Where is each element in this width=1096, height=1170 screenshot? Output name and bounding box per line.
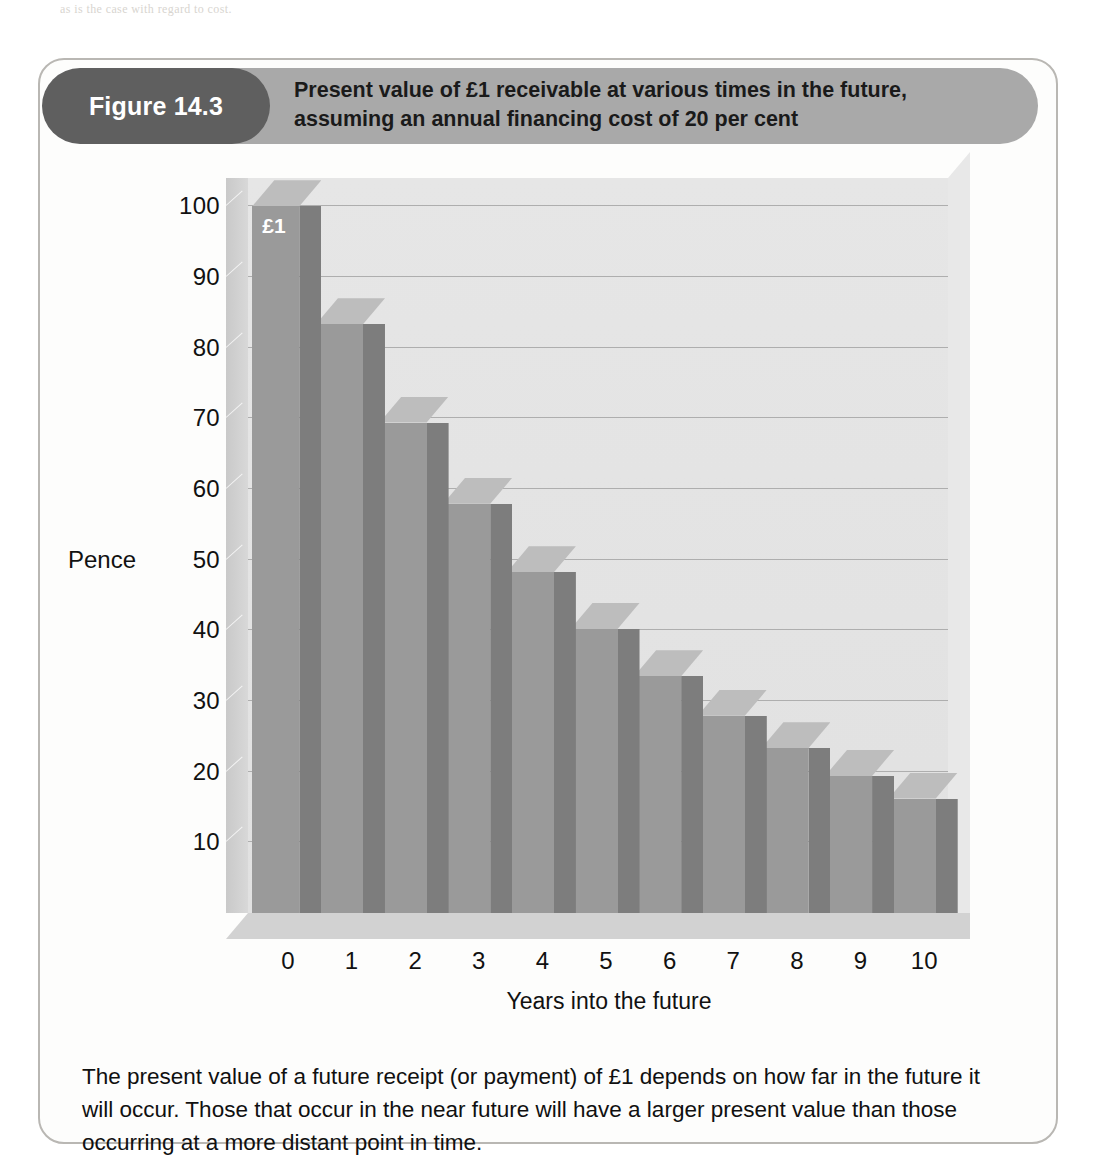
left-wall-gridline-50 (226, 544, 243, 559)
bar-side-face (618, 629, 640, 913)
x-tick-label-6: 6 (640, 947, 700, 975)
y-axis-tick-labels: 102030405060708090100 (140, 178, 220, 913)
x-axis-tick-labels: 012345678910 (248, 947, 970, 983)
bar-year-7 (698, 716, 745, 913)
figure-title-banner: Figure 14.3 Present value of £1 receivab… (66, 68, 1038, 144)
bar-top-face (889, 773, 958, 799)
bar-front-face (761, 748, 808, 913)
bar-side-face (872, 776, 894, 913)
bar-year-2 (380, 423, 427, 913)
left-wall-gridline-20 (226, 756, 243, 771)
y-tick-label-80: 80 (150, 334, 220, 362)
bar-side-face (299, 206, 321, 913)
bar-year-6 (634, 676, 681, 913)
chart: 102030405060708090100 Pence £1 012345678… (40, 152, 1056, 1052)
x-tick-label-4: 4 (512, 947, 572, 975)
left-wall-gridline-100 (226, 191, 243, 206)
y-tick-label-60: 60 (150, 475, 220, 503)
bar-front-face (380, 423, 427, 913)
x-tick-label-10: 10 (894, 947, 954, 975)
y-tick-label-50: 50 (150, 546, 220, 574)
bar-top-face (507, 546, 576, 572)
bar-year-8 (761, 748, 808, 913)
x-tick-label-3: 3 (449, 947, 509, 975)
chart-left-wall (226, 178, 248, 913)
y-tick-label-100: 100 (150, 192, 220, 220)
bar-year-5 (570, 629, 617, 913)
x-tick-label-8: 8 (767, 947, 827, 975)
x-tick-label-7: 7 (703, 947, 763, 975)
y-tick-label-40: 40 (150, 616, 220, 644)
bar-side-face (681, 676, 703, 913)
bar-side-face (427, 423, 449, 913)
page-bleed-text: as is the case with regard to cost. (60, 2, 480, 20)
bar-top-face (761, 722, 830, 748)
bar-top-face (252, 180, 321, 206)
x-tick-label-0: 0 (258, 947, 318, 975)
y-tick-label-30: 30 (150, 687, 220, 715)
figure-card: Figure 14.3 Present value of £1 receivab… (38, 58, 1058, 1144)
left-wall-gridline-40 (226, 615, 243, 630)
left-wall-gridline-80 (226, 332, 243, 347)
bar-top-face (698, 690, 767, 716)
y-tick-label-90: 90 (150, 263, 220, 291)
chart-bars: £1 (248, 178, 970, 939)
x-tick-label-9: 9 (831, 947, 891, 975)
figure-title-line-2: assuming an annual financing cost of 20 … (294, 105, 1024, 134)
x-axis-title: Years into the future (248, 988, 970, 1015)
bar-front-face (889, 799, 936, 913)
left-wall-gridline-90 (226, 261, 243, 276)
left-wall-gridline-60 (226, 473, 243, 488)
y-tick-label-20: 20 (150, 758, 220, 786)
bar-front-face (316, 324, 363, 913)
bar-front-face (634, 676, 681, 913)
figure-title: Present value of £1 receivable at variou… (294, 76, 1024, 134)
bar-top-face (316, 298, 385, 324)
bar-side-face (808, 748, 830, 913)
figure-caption: The present value of a future receipt (o… (82, 1060, 1012, 1159)
bar-front-face (443, 504, 490, 913)
bar-front-face (698, 716, 745, 913)
y-tick-label-70: 70 (150, 404, 220, 432)
bar-year-1 (316, 324, 363, 913)
left-wall-gridline-10 (226, 827, 243, 842)
x-tick-label-1: 1 (321, 947, 381, 975)
bar-side-face (554, 572, 576, 913)
bar-top-face (825, 750, 894, 776)
bar-year-9 (825, 776, 872, 913)
figure-title-line-1: Present value of £1 receivable at variou… (294, 76, 1024, 105)
left-wall-gridline-30 (226, 685, 243, 700)
bar-top-face (634, 650, 703, 676)
bar-top-face (570, 603, 639, 629)
figure-number-label: Figure 14.3 (89, 92, 223, 121)
left-wall-gridline-70 (226, 403, 243, 418)
bar-side-face (936, 799, 958, 913)
bar-side-face (745, 716, 767, 913)
bar-front-face (507, 572, 554, 913)
bar-year-10 (889, 799, 936, 913)
bar-annotation-label: £1 (262, 214, 285, 238)
bar-top-face (443, 478, 512, 504)
y-tick-label-10: 10 (150, 828, 220, 856)
bar-front-face (825, 776, 872, 913)
figure-number-pill: Figure 14.3 (42, 68, 270, 144)
bar-side-face (363, 324, 385, 913)
x-tick-label-5: 5 (576, 947, 636, 975)
bar-front-face (570, 629, 617, 913)
bar-year-0: £1 (252, 206, 299, 913)
bar-side-face (490, 504, 512, 913)
y-axis-title: Pence (40, 546, 136, 574)
bar-year-3 (443, 504, 490, 913)
x-tick-label-2: 2 (385, 947, 445, 975)
bar-front-face (252, 206, 299, 913)
bar-year-4 (507, 572, 554, 913)
bar-top-face (380, 397, 449, 423)
